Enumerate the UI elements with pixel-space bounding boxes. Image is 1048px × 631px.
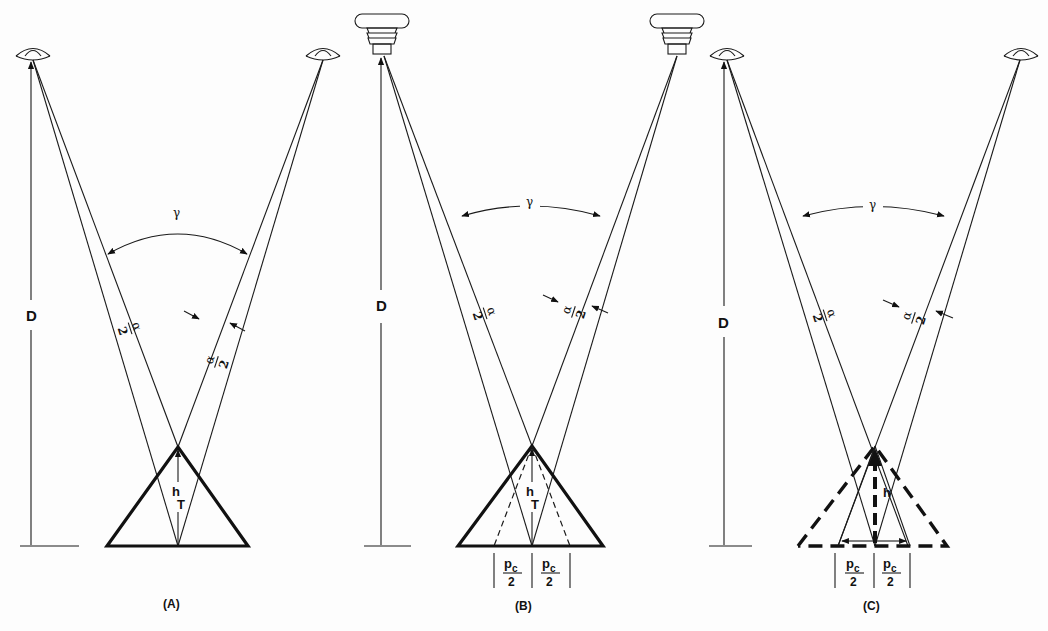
eye-icon xyxy=(306,49,340,61)
angle-gamma-label: γ xyxy=(173,206,180,220)
panel-b: D γ α 2 α 2 h T xyxy=(355,14,704,613)
half-angle-label-left: α 2 xyxy=(114,318,145,338)
base-label-right: p c 2 xyxy=(541,556,560,589)
eye-icon xyxy=(1004,49,1038,61)
svg-text:T: T xyxy=(177,497,185,512)
svg-text:2: 2 xyxy=(810,312,826,324)
base-label-left: p c 2 xyxy=(845,556,864,589)
svg-text:2: 2 xyxy=(115,325,131,337)
svg-text:c: c xyxy=(854,563,860,574)
panel-a: D γ α 2 α 2 h T (A) xyxy=(16,49,340,612)
distance-label: D xyxy=(718,314,729,331)
distance-label: D xyxy=(376,297,387,314)
projector-icon xyxy=(650,14,704,54)
base-label-left: p c 2 xyxy=(503,556,522,589)
svg-text:2: 2 xyxy=(913,314,929,326)
svg-text:2: 2 xyxy=(850,575,857,589)
svg-text:p: p xyxy=(846,556,854,571)
stereo-geometry-figure: D γ α 2 α 2 h T (A) xyxy=(0,0,1048,631)
panel-caption: (A) xyxy=(163,597,180,611)
svg-text:c: c xyxy=(891,563,897,574)
svg-text:p: p xyxy=(883,556,891,571)
base-label-right: p c 2 xyxy=(882,556,901,589)
svg-text:2: 2 xyxy=(887,575,894,589)
svg-text:p: p xyxy=(504,556,512,571)
panel-caption: (B) xyxy=(515,599,532,613)
panel-c: D γ α 2 α 2 h xyxy=(709,49,1038,614)
angle-gamma-label: γ xyxy=(526,195,533,209)
panel-caption: (C) xyxy=(863,599,880,613)
svg-text:2: 2 xyxy=(470,310,486,322)
eye-icon xyxy=(16,49,50,61)
svg-text:c: c xyxy=(550,563,556,574)
half-angle-label-right: α 2 xyxy=(201,352,232,372)
half-angle-label-right: α 2 xyxy=(898,308,929,328)
eye-icon xyxy=(710,49,744,61)
svg-text:T: T xyxy=(531,497,539,512)
svg-text:2: 2 xyxy=(546,575,553,589)
svg-text:2: 2 xyxy=(508,575,515,589)
svg-text:c: c xyxy=(512,563,518,574)
height-label: h xyxy=(883,485,891,500)
svg-text:p: p xyxy=(542,556,550,571)
projector-icon xyxy=(355,14,409,54)
angle-gamma-label: γ xyxy=(869,198,876,212)
distance-label: D xyxy=(26,307,37,324)
svg-text:2: 2 xyxy=(573,308,589,320)
svg-text:2: 2 xyxy=(216,358,232,370)
